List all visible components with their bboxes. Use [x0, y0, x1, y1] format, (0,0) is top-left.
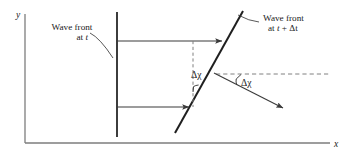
leader-line-wavefront-t	[90, 33, 113, 58]
x-axis-label: x	[333, 139, 339, 149]
wavefront-t-dt-label-line2: at t + Δt	[268, 23, 298, 33]
wavefront-t-label-prefix: at	[77, 32, 86, 42]
wave-front-figure: y x Δχ Δχ Wave front at t	[0, 0, 355, 158]
wavefront-t-label-line2: at t	[77, 32, 89, 42]
angle-label-left: Δχ	[191, 69, 202, 80]
y-axis-label: y	[15, 10, 21, 20]
wavefront-t-label-line1: Wave front	[52, 22, 93, 32]
wavefront-t-dt-label-suffix: + Δt	[280, 23, 299, 33]
figure-canvas: y x Δχ Δχ Wave front at t	[0, 0, 355, 158]
wavefront-t-label-variable: t	[85, 32, 88, 42]
wavefront-t-dt-label-prefix: at	[268, 23, 277, 33]
angle-label-right: Δχ	[241, 77, 252, 88]
wavefront-slanted-line	[175, 11, 243, 133]
wavefront-t-label-group: Wave front at t	[52, 22, 93, 42]
wavefront-t-dt-label-line1: Wave front	[263, 13, 304, 23]
wavefront-t-dt-label-group: Wave front at t + Δt	[263, 13, 304, 33]
